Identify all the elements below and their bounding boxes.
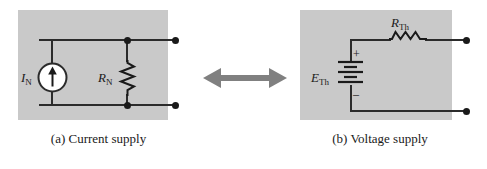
panel-a-top-wire [39, 39, 175, 41]
current-source-label-sub: N [25, 77, 32, 87]
panel-b-top-terminal [463, 37, 470, 44]
resistor-rn-label-main: R [98, 70, 106, 85]
panel-b-top-wire-left [350, 39, 391, 41]
resistor-rth-label: RTh [391, 16, 409, 29]
battery-label-main: E [311, 70, 319, 85]
panel-a-top-terminal [172, 37, 179, 44]
panel-b-background [300, 10, 452, 120]
battery-positive-sign: + [353, 48, 360, 60]
panel-b-caption: (b) Voltage supply [300, 131, 460, 147]
panel-a-left-rail-upper [51, 39, 53, 64]
panel-b-bottom-terminal [463, 108, 470, 115]
battery-label: ETh [311, 71, 329, 84]
resistor-rn-icon [118, 60, 137, 96]
panel-b-left-rail-lower [350, 85, 352, 112]
panel-a-top-junction [124, 37, 131, 44]
battery-negative-sign: – [353, 88, 359, 100]
double-headed-arrow-icon [203, 66, 287, 90]
resistor-rth-label-main: R [391, 15, 399, 30]
resistor-rn-label: RN [98, 71, 112, 84]
current-source-label: IN [21, 71, 32, 84]
panel-a-caption: (a) Current supply [26, 131, 171, 147]
panel-b-top-wire-right [425, 39, 466, 41]
resistor-rth-label-sub: Th [399, 22, 409, 32]
resistor-rn-label-sub: N [106, 77, 113, 87]
panel-a-bottom-terminal [172, 102, 179, 109]
battery-label-sub: Th [319, 77, 329, 87]
panel-a-bottom-junction [124, 102, 131, 109]
panel-a-bottom-wire [39, 104, 175, 106]
battery-icon [335, 57, 366, 89]
panel-b-bottom-wire [350, 110, 466, 112]
panel-a-left-rail-lower [51, 91, 53, 106]
figure-container: IN RN (a) Current supply [0, 0, 487, 169]
current-source-icon [37, 62, 68, 93]
